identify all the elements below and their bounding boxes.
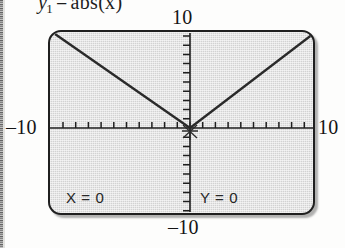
graph-plot-area[interactable]: [48, 30, 315, 215]
page-scan-edge-artifact-inner: [3, 0, 5, 248]
trace-x-readout: X = 0: [66, 189, 104, 206]
curve-abs-x: [55, 34, 313, 128]
formula-subscript: 1: [46, 1, 53, 16]
x-max-label: 10: [318, 116, 338, 139]
graphing-calculator-screen[interactable]: X = 0 Y = 0: [48, 30, 315, 215]
y-min-label: –10: [168, 216, 199, 239]
scanned-page: y1=abs(x): [0, 0, 345, 248]
formula-operator: =: [56, 0, 68, 13]
x-min-label: –10: [6, 116, 37, 139]
formula-title: y1=abs(x): [38, 0, 122, 17]
y-max-label: 10: [172, 6, 192, 29]
formula-expression: abs(x): [71, 0, 123, 13]
trace-y-readout: Y = 0: [200, 189, 238, 206]
